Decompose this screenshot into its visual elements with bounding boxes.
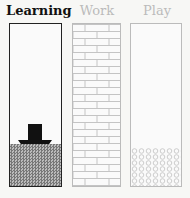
brick-pattern: [73, 24, 120, 186]
label-learning: Learning: [6, 3, 66, 18]
learning-fill: [10, 144, 61, 186]
play-column: [130, 23, 182, 187]
work-column: [72, 23, 121, 187]
label-play: Play: [130, 3, 184, 18]
label-work: Work: [72, 3, 122, 18]
circles-pattern: [131, 148, 181, 186]
learning-column: [9, 23, 62, 187]
